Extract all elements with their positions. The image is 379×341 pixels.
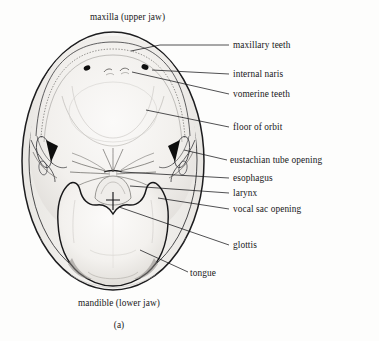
frog-mouth-diagram <box>0 0 379 341</box>
label-mandible-lower-jaw: mandible (lower jaw) <box>0 298 238 309</box>
label-esophagus: esophagus <box>233 173 273 184</box>
label-panel-letter: (a) <box>0 320 238 331</box>
label-vomerine-teeth: vomerine teeth <box>233 89 290 100</box>
figure-page: maxilla (upper jaw) maxillary teeth inte… <box>0 0 379 341</box>
label-tongue: tongue <box>190 268 216 279</box>
label-glottis: glottis <box>233 240 257 251</box>
label-maxillary-teeth: maxillary teeth <box>233 40 291 51</box>
label-maxilla-upper-jaw: maxilla (upper jaw) <box>0 12 255 23</box>
label-eustachian-tube-opening: eustachian tube opening <box>230 155 322 166</box>
label-floor-of-orbit: floor of orbit <box>233 122 282 133</box>
label-vocal-sac-opening: vocal sac opening <box>233 204 301 215</box>
label-internal-naris: internal naris <box>233 69 283 80</box>
label-larynx: larynx <box>233 188 257 199</box>
